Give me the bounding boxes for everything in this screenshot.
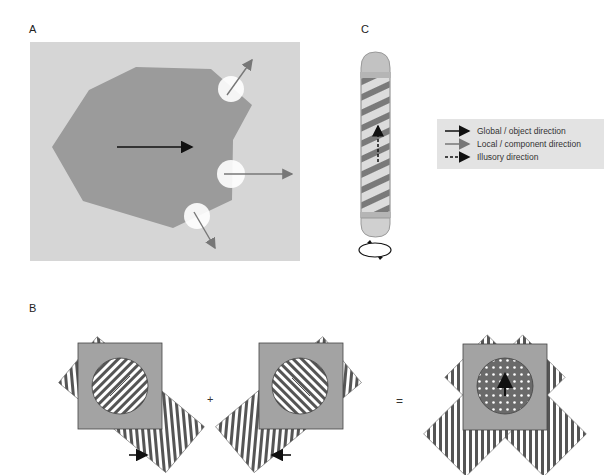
- panel-b-second: [216, 337, 362, 473]
- barber-pole: [359, 52, 391, 260]
- panel-a: [30, 42, 300, 261]
- figure-canvas: + =: [0, 0, 616, 475]
- legend-local: Local / component direction: [477, 139, 581, 149]
- panel-b-result: [424, 335, 587, 475]
- equals-sign: =: [396, 394, 403, 408]
- legend-illusory: Illusory direction: [477, 152, 538, 162]
- plus-sign: +: [207, 393, 213, 405]
- rotation-icon: [359, 243, 391, 257]
- panel-b-first: [59, 337, 205, 473]
- legend: Global / object direction Local / compon…: [437, 119, 604, 169]
- legend-global: Global / object direction: [477, 126, 566, 136]
